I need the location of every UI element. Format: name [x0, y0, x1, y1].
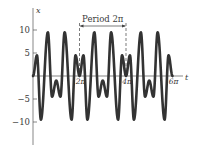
y-tick-label: 5 [25, 48, 30, 58]
period-label: Period 2π [82, 14, 124, 24]
y-axis-label: x [36, 6, 41, 15]
y-tick-label: 10 [19, 25, 30, 35]
x-axis-label: t [185, 73, 189, 82]
y-tick-label: −5 [17, 94, 30, 104]
x-tick-label: 6π [169, 77, 180, 86]
period-arrow-head-left [80, 24, 84, 27]
periodic-signal-chart: Period 2π x t 105−5−10 2π4π6π [0, 0, 199, 155]
period-arrow-head-right [122, 24, 126, 27]
y-tick-label: −10 [12, 117, 30, 127]
